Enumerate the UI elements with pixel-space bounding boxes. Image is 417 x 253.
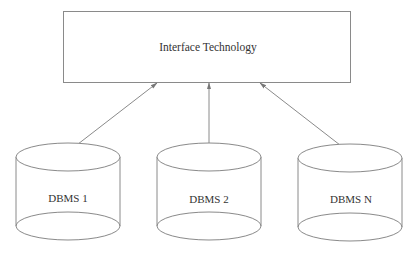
arrow-interface-dbmsn <box>260 83 349 152</box>
dbms-n-cylinder: DBMS N <box>298 144 402 241</box>
dbms-n-label: DBMS N <box>330 193 372 205</box>
dbms-2-cylinder: DBMS 2 <box>157 143 261 240</box>
interface-technology-node: Interface Technology <box>64 12 351 83</box>
diagram-canvas: Interface Technology DBMS 1 DBMS 2 DBMS … <box>0 0 417 253</box>
dbms-2-label: DBMS 2 <box>189 193 228 205</box>
interface-technology-label: Interface Technology <box>159 41 257 54</box>
dbms-1-label: DBMS 1 <box>48 192 87 204</box>
arrow-interface-dbms1 <box>69 83 157 151</box>
dbms-1-cylinder: DBMS 1 <box>16 143 120 240</box>
